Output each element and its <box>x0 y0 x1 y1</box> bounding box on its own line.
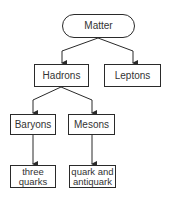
node-quark-and-antiquark: quark and antiquark <box>69 165 116 188</box>
node-label: three quarks <box>17 167 49 186</box>
node-matter: Matter <box>62 14 135 38</box>
node-label: Leptons <box>115 71 151 81</box>
node-three-quarks: three quarks <box>10 165 56 188</box>
node-baryons: Baryons <box>10 114 56 135</box>
node-label: Mesons <box>74 120 109 130</box>
node-label: Baryons <box>15 120 52 130</box>
node-label: Matter <box>84 21 112 31</box>
node-mesons: Mesons <box>68 114 115 135</box>
node-hadrons: Hadrons <box>34 64 89 87</box>
node-leptons: Leptons <box>104 64 161 87</box>
node-label: quark and antiquark <box>71 167 114 186</box>
node-label: Hadrons <box>43 71 81 81</box>
